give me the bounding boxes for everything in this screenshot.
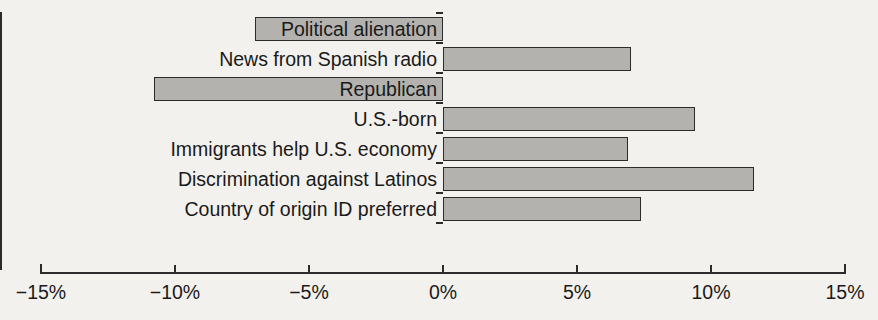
- x-axis-tick-mark: [844, 264, 846, 274]
- plot-area: Political alienationNews from Spanish ra…: [0, 0, 878, 265]
- bar-row: News from Spanish radio: [0, 44, 878, 74]
- x-axis-tick-label: −15%: [16, 281, 66, 304]
- y-axis-tick: [436, 72, 443, 74]
- bar-row: Discrimination against Latinos: [0, 164, 878, 194]
- x-axis-tick-mark: [576, 265, 578, 273]
- y-axis-tick: [436, 222, 443, 224]
- x-axis-tick-mark: [308, 265, 310, 273]
- bar-row: Republican: [0, 74, 878, 104]
- y-axis-tick: [436, 42, 443, 44]
- zero-baseline: [0, 12, 2, 270]
- bar-category-label: U.S.-born: [354, 106, 443, 132]
- y-axis-tick: [436, 132, 443, 134]
- bar: [443, 107, 695, 131]
- bar: [443, 47, 631, 71]
- horizontal-bar-chart: Political alienationNews from Spanish ra…: [0, 0, 878, 320]
- bar-category-label: Discrimination against Latinos: [178, 166, 443, 192]
- bar: [443, 167, 754, 191]
- bar-category-label: Political alienation: [281, 16, 443, 42]
- bar-row: U.S.-born: [0, 104, 878, 134]
- bar-row: Country of origin ID preferred: [0, 194, 878, 224]
- bar-category-label: Republican: [339, 76, 443, 102]
- x-axis-tick-mark: [442, 265, 444, 273]
- bar-row: Immigrants help U.S. economy: [0, 134, 878, 164]
- x-axis-tick-mark: [710, 265, 712, 273]
- bar-category-label: Immigrants help U.S. economy: [170, 136, 443, 162]
- x-axis-tick-label: 10%: [691, 281, 730, 304]
- y-axis-tick: [436, 12, 443, 14]
- bar-row: Political alienation: [0, 14, 878, 44]
- x-axis-tick-label: −5%: [289, 281, 329, 304]
- y-axis-tick: [436, 162, 443, 164]
- y-axis-tick: [436, 192, 443, 194]
- x-axis-tick-label: 15%: [825, 281, 864, 304]
- bar-category-label: Country of origin ID preferred: [184, 196, 443, 222]
- x-axis-tick-label: 5%: [563, 281, 591, 304]
- bar: [443, 197, 641, 221]
- x-axis-tick-mark: [174, 265, 176, 273]
- x-axis-tick-label: 0%: [429, 281, 457, 304]
- bar: [443, 137, 628, 161]
- x-axis-tick-label: −10%: [150, 281, 200, 304]
- y-axis-tick: [436, 102, 443, 104]
- x-axis-tick-mark: [40, 264, 42, 274]
- bar-category-label: News from Spanish radio: [219, 46, 443, 72]
